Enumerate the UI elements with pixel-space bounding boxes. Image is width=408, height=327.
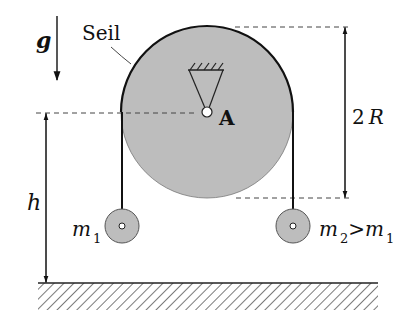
pivot-point xyxy=(202,107,212,117)
mass-1-label: m1 xyxy=(72,217,101,246)
diagram-svg: g Seil A 2R h m1 m2> xyxy=(0,0,408,327)
rope-leader-line xyxy=(111,47,131,64)
ground xyxy=(38,283,378,310)
gravity-label: g xyxy=(36,27,51,53)
mass-2-label: m2>m1 xyxy=(319,217,394,246)
pivot-label: A xyxy=(218,106,235,130)
mass-2-hook xyxy=(290,223,296,229)
diameter-label: 2R xyxy=(352,105,384,129)
height-label: h xyxy=(27,190,41,215)
rope-label: Seil xyxy=(82,21,120,45)
pulley-diagram: g Seil A 2R h m1 m2> xyxy=(0,0,408,327)
mass-1-hook xyxy=(119,223,125,229)
